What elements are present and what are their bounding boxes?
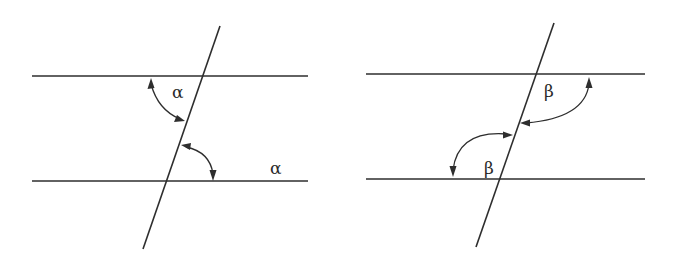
left-panel-alternate-angles-alpha: α α	[32, 26, 308, 249]
left-angle-label-upper: α	[172, 82, 184, 102]
left-lower-angle-arrow-icon	[181, 143, 217, 181]
left-angle-label-lower: α	[270, 158, 282, 178]
right-angle-label-upper: β	[544, 81, 554, 101]
angle-diagram: α α β β	[0, 0, 679, 260]
right-angle-label-lower: β	[484, 158, 494, 178]
right-panel-alternate-angles-beta: β β	[366, 23, 645, 247]
left-transversal-line	[143, 26, 220, 249]
right-upper-angle-arrow-icon	[520, 77, 593, 127]
